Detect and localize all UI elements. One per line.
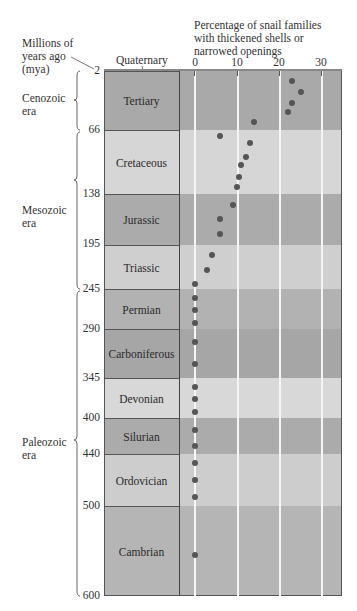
data-point [192, 281, 198, 287]
data-point [217, 231, 223, 237]
era-name: Mesozoic [22, 204, 67, 217]
era-suffix: era [22, 449, 67, 462]
x-axis-title-line1: Percentage of snail families [194, 19, 321, 32]
data-point [298, 89, 304, 95]
gridline-0 [194, 71, 196, 596]
era-label-cenozoic: Cenozoic era [22, 92, 65, 118]
data-point [289, 100, 295, 106]
y-axis-title-line2: years ago [22, 50, 73, 63]
data-point [192, 295, 198, 301]
y-axis-title-line1: Millions of [22, 37, 73, 50]
data-point [238, 162, 244, 168]
brace-paleozoic [74, 291, 80, 596]
chart-frame [104, 71, 342, 596]
data-point [243, 154, 249, 160]
x-tick-label-30: 30 [315, 56, 327, 68]
data-point [234, 184, 240, 190]
gridline-30 [321, 71, 323, 596]
data-point [192, 339, 198, 345]
x-tick-label-10: 10 [231, 56, 243, 68]
gridline-20 [279, 71, 281, 596]
y-axis-title-line3: (mya) [22, 63, 73, 76]
data-point [192, 409, 198, 415]
data-point [209, 252, 215, 258]
tick-10 [237, 71, 238, 76]
x-tick-label-20: 20 [273, 56, 285, 68]
data-point [230, 202, 236, 208]
era-suffix: era [22, 105, 65, 118]
data-point [217, 216, 223, 222]
data-point [192, 427, 198, 433]
data-point [192, 477, 198, 483]
brace-cenozoic [74, 71, 80, 130]
tick-20 [279, 71, 280, 76]
data-point [192, 361, 198, 367]
data-point [192, 307, 198, 313]
data-point [192, 552, 198, 558]
era-name: Paleozoic [22, 436, 67, 449]
data-point [192, 396, 198, 402]
era-suffix: era [22, 217, 67, 230]
data-point [192, 494, 198, 500]
data-point [192, 320, 198, 326]
x-axis-title-line3: narrowed openings [194, 45, 321, 58]
tick-0 [194, 71, 195, 76]
gridline-10 [237, 71, 239, 596]
era-name: Cenozoic [22, 92, 65, 105]
x-axis-title: Percentage of snail families with thicke… [194, 19, 321, 58]
column-divider [179, 71, 180, 596]
data-point [204, 267, 210, 273]
era-braces [70, 0, 84, 611]
data-point [285, 109, 291, 115]
data-point [192, 443, 198, 449]
data-point [192, 460, 198, 466]
data-point [289, 78, 295, 84]
x-axis-title-line2: with thickened shells or [194, 32, 321, 45]
era-label-mesozoic: Mesozoic era [22, 204, 67, 230]
y-axis-title: Millions of years ago (mya) [22, 37, 73, 76]
data-point [217, 133, 223, 139]
era-label-paleozoic: Paleozoic era [22, 436, 67, 462]
data-point [192, 384, 198, 390]
tick-30 [321, 71, 322, 76]
data-point [251, 119, 257, 125]
data-point [247, 140, 253, 146]
x-tick-label-0: 0 [192, 56, 198, 68]
data-point [236, 174, 242, 180]
brace-mesozoic [74, 132, 80, 289]
